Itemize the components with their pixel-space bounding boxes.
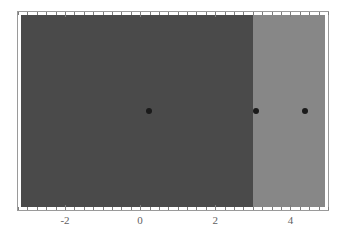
x-tick-major: [140, 205, 141, 210]
x-tick-minor: [178, 12, 179, 15]
x-tick-minor: [46, 207, 47, 210]
x-tick-major: [215, 205, 216, 210]
x-tick-major: [290, 12, 291, 17]
x-tick-minor: [225, 207, 226, 210]
x-tick-minor: [281, 12, 282, 15]
x-tick-minor: [234, 12, 235, 15]
x-tick-minor: [253, 12, 254, 15]
x-tick-minor: [225, 12, 226, 15]
x-tick-minor: [103, 12, 104, 15]
x-tick-minor: [262, 207, 263, 210]
x-tick-minor: [328, 12, 329, 15]
plot-frame: [17, 11, 329, 211]
point-marker: [146, 108, 152, 114]
x-tick-minor: [168, 207, 169, 210]
x-tick-minor: [319, 207, 320, 210]
x-tick-minor: [178, 207, 179, 210]
x-tick-minor: [168, 12, 169, 15]
x-tick-minor: [18, 12, 19, 15]
x-tick-minor: [84, 207, 85, 210]
x-tick-minor: [187, 207, 188, 210]
x-tick-minor: [56, 12, 57, 15]
x-tick-minor: [131, 207, 132, 210]
x-tick-minor: [18, 207, 19, 210]
x-axis-tick-label: 0: [137, 214, 143, 226]
x-tick-minor: [74, 12, 75, 15]
x-tick-minor: [319, 12, 320, 15]
x-tick-minor: [272, 207, 273, 210]
x-tick-minor: [206, 12, 207, 15]
x-tick-minor: [37, 207, 38, 210]
x-axis-tick-label: 4: [288, 214, 294, 226]
x-tick-minor: [206, 207, 207, 210]
x-tick-minor: [131, 12, 132, 15]
x-tick-major: [290, 205, 291, 210]
x-tick-minor: [121, 12, 122, 15]
point-marker: [253, 108, 259, 114]
x-tick-minor: [46, 12, 47, 15]
x-tick-minor: [253, 207, 254, 210]
x-tick-minor: [262, 12, 263, 15]
x-tick-minor: [150, 207, 151, 210]
dark-region: [21, 15, 253, 207]
x-tick-minor: [234, 207, 235, 210]
x-tick-minor: [37, 12, 38, 15]
x-axis-tick-label: 2: [213, 214, 219, 226]
x-tick-minor: [187, 12, 188, 15]
light-region: [253, 15, 325, 207]
x-tick-minor: [159, 207, 160, 210]
x-tick-minor: [328, 207, 329, 210]
x-tick-minor: [309, 12, 310, 15]
x-tick-minor: [103, 207, 104, 210]
x-tick-minor: [112, 207, 113, 210]
x-tick-minor: [93, 207, 94, 210]
x-tick-minor: [196, 207, 197, 210]
x-tick-minor: [112, 12, 113, 15]
x-tick-minor: [243, 12, 244, 15]
x-tick-major: [65, 12, 66, 17]
x-tick-minor: [84, 12, 85, 15]
x-tick-minor: [281, 207, 282, 210]
x-tick-major: [215, 12, 216, 17]
x-tick-minor: [300, 207, 301, 210]
x-tick-minor: [56, 207, 57, 210]
x-tick-minor: [150, 12, 151, 15]
x-tick-minor: [27, 207, 28, 210]
x-tick-minor: [309, 207, 310, 210]
plot-figure: -2024: [0, 0, 345, 238]
x-tick-major: [65, 205, 66, 210]
point-marker: [302, 108, 308, 114]
plot-canvas: [18, 12, 328, 210]
x-tick-minor: [300, 12, 301, 15]
x-tick-minor: [93, 12, 94, 15]
x-tick-minor: [243, 207, 244, 210]
x-tick-minor: [27, 12, 28, 15]
x-tick-minor: [121, 207, 122, 210]
x-axis-tick-label: -2: [60, 214, 69, 226]
x-tick-minor: [196, 12, 197, 15]
x-tick-minor: [74, 207, 75, 210]
x-tick-major: [140, 12, 141, 17]
x-tick-minor: [272, 12, 273, 15]
x-tick-minor: [159, 12, 160, 15]
